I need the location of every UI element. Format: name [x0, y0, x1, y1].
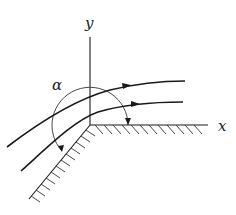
angle-label: α: [52, 76, 62, 94]
angle-arc-arrow-right: [125, 118, 131, 125]
inclined-wall-hatching: [31, 130, 95, 202]
corner-flow-diagram: y x α: [0, 0, 236, 215]
streamline-lower-arrow: [131, 101, 140, 107]
streamline-upper: [7, 81, 185, 147]
streamline-lower: [21, 102, 183, 171]
y-axis-label: y: [84, 14, 94, 32]
x-axis-label: x: [218, 117, 227, 135]
x-wall-hatching: [95, 125, 202, 134]
angle-arc-arrow-left: [58, 145, 64, 152]
